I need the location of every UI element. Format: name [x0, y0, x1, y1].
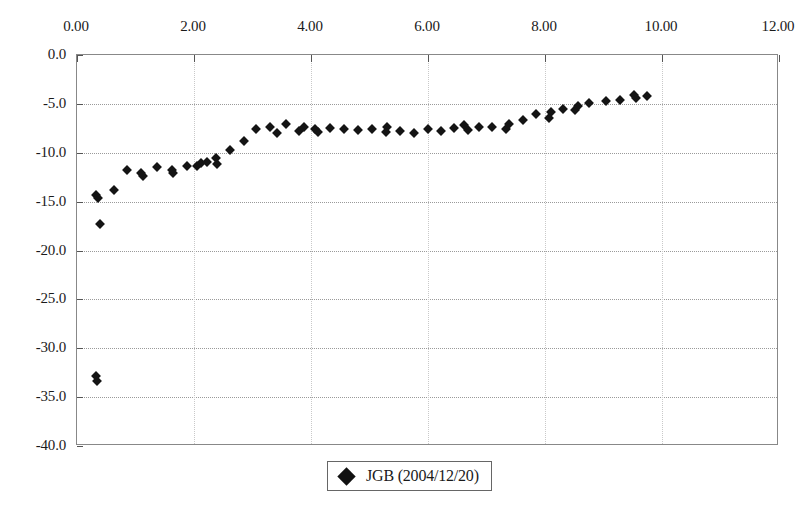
x-axis-tick: [428, 55, 429, 62]
data-point: [449, 123, 459, 133]
data-point: [409, 128, 419, 138]
data-point: [313, 127, 323, 137]
legend-series-label: JGB (2004/12/20): [366, 467, 479, 485]
chart-legend: JGB (2004/12/20): [327, 461, 492, 491]
data-point: [182, 161, 192, 171]
data-point: [436, 126, 446, 136]
y-axis-tick: [77, 446, 83, 447]
data-point: [423, 124, 433, 134]
x-axis-tick: [545, 55, 546, 62]
y-axis-tick-label: -40.0: [0, 437, 66, 453]
y-axis-tick: [77, 202, 83, 203]
gridline-horizontal: [77, 397, 777, 398]
data-point: [518, 115, 528, 125]
scatter-chart: 0.0-5.0-10.0-15.0-20.0-25.0-30.0-35.0-40…: [0, 0, 797, 515]
y-axis-tick: [77, 397, 83, 398]
gridline-vertical: [428, 55, 429, 444]
x-axis-tick-label: 4.00: [297, 18, 322, 34]
gridline-vertical: [662, 55, 663, 444]
y-axis-tick-label: -15.0: [0, 193, 66, 209]
data-point: [93, 377, 103, 387]
x-axis-tick: [194, 55, 195, 62]
data-point: [585, 98, 595, 108]
data-point: [367, 124, 377, 134]
plot-area: [76, 54, 778, 445]
data-point: [281, 119, 291, 129]
gridline-horizontal: [77, 153, 777, 154]
plot-inner: [77, 55, 777, 444]
gridline-horizontal: [77, 299, 777, 300]
x-axis-tick: [662, 55, 663, 62]
data-point: [109, 185, 119, 195]
data-point: [339, 124, 349, 134]
data-point: [152, 162, 162, 172]
data-point: [95, 219, 105, 229]
x-axis-tick-label: 10.00: [645, 18, 678, 34]
x-axis-tick-label: 12.00: [762, 18, 795, 34]
y-axis-tick-label: -30.0: [0, 339, 66, 355]
x-axis-tick: [311, 55, 312, 62]
y-axis-tick: [77, 104, 83, 105]
y-axis-tick-label: -35.0: [0, 388, 66, 404]
y-axis-tick: [77, 251, 83, 252]
data-point: [531, 109, 541, 119]
data-point: [475, 122, 485, 132]
y-axis-tick-label: -10.0: [0, 144, 66, 160]
data-point: [251, 124, 261, 134]
y-axis-tick: [77, 299, 83, 300]
x-axis-tick: [779, 55, 780, 62]
y-axis-tick: [77, 348, 83, 349]
data-point: [558, 104, 568, 114]
y-axis-tick: [77, 153, 83, 154]
gridline-horizontal: [77, 348, 777, 349]
data-point: [122, 165, 132, 175]
y-axis-tick-label: -25.0: [0, 290, 66, 306]
diamond-marker-icon: [337, 467, 355, 485]
data-point: [463, 125, 473, 135]
x-axis-tick-label: 6.00: [414, 18, 439, 34]
gridline-vertical: [194, 55, 195, 444]
data-point: [272, 128, 282, 138]
gridline-vertical: [545, 55, 546, 444]
data-point: [138, 171, 148, 181]
data-point: [353, 125, 363, 135]
x-axis-tick: [77, 55, 78, 62]
y-axis-tick-label: 0.0: [0, 46, 66, 62]
gridline-vertical: [311, 55, 312, 444]
y-axis-tick-label: -5.0: [0, 95, 66, 111]
x-axis-tick-label: 2.00: [180, 18, 205, 34]
data-point: [642, 91, 652, 101]
data-point: [395, 126, 405, 136]
x-axis-tick-label: 8.00: [531, 18, 556, 34]
gridline-horizontal: [77, 104, 777, 105]
y-axis-tick-label: -20.0: [0, 242, 66, 258]
data-point: [239, 136, 249, 146]
x-axis-tick-label: 0.00: [63, 18, 88, 34]
gridline-horizontal: [77, 251, 777, 252]
gridline-horizontal: [77, 202, 777, 203]
data-point: [325, 123, 335, 133]
data-point: [487, 122, 497, 132]
